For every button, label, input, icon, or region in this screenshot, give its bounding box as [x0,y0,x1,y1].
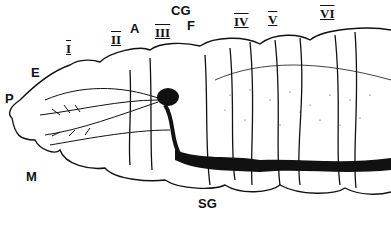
segment-label-1: I [66,42,71,55]
label-cg: CG [171,4,191,17]
label-p: P [5,92,14,105]
label-f: F [187,19,195,32]
segment-label-3: III [155,26,170,39]
earthworm-nervous-system-diagram: P E M A CG F SG I II III IV V VI [0,0,391,226]
segment-label-2: II [111,33,121,46]
segment-label-6: VI [320,7,334,20]
diagram-drawing [0,0,391,226]
segment-label-5: V [268,13,277,26]
label-m: M [26,170,37,183]
label-a: A [130,22,139,35]
label-sg: SG [198,197,217,210]
stipple-region [224,89,370,125]
gut-outline [215,65,391,80]
cerebral-ganglion [157,88,179,106]
label-e: E [31,66,40,79]
segment-label-4: IV [234,15,248,28]
